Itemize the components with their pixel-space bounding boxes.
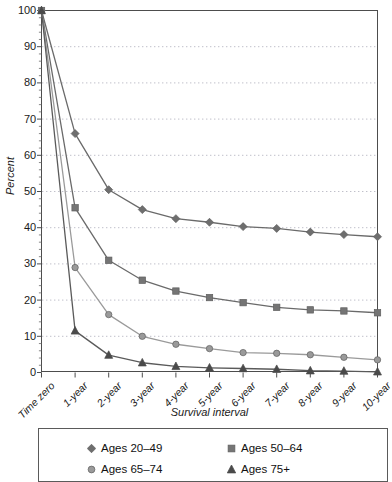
circle-marker-icon <box>87 464 96 473</box>
legend-label: Ages 75+ <box>241 463 290 475</box>
legend-item-2[interactable]: Ages 65–74 <box>87 463 227 475</box>
diamond-marker-icon <box>87 443 96 452</box>
legend: Ages 20–49Ages 50–64Ages 65–74Ages 75+ <box>38 428 388 482</box>
triangle-marker-icon <box>227 464 236 473</box>
legend-label: Ages 65–74 <box>101 463 162 475</box>
x-axis-title: Survival interval <box>41 406 378 418</box>
legend-item-3[interactable]: Ages 75+ <box>227 463 357 475</box>
legend-label: Ages 50–64 <box>241 442 302 454</box>
legend-item-1[interactable]: Ages 50–64 <box>227 442 357 454</box>
legend-grid: Ages 20–49Ages 50–64Ages 65–74Ages 75+ <box>87 437 357 479</box>
square-marker-icon <box>227 443 236 452</box>
legend-label: Ages 20–49 <box>101 442 162 454</box>
legend-item-0[interactable]: Ages 20–49 <box>87 442 227 454</box>
